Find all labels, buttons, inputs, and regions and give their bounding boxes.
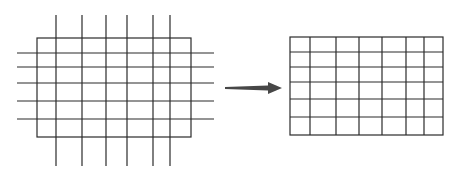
clipped-grid [290, 37, 443, 135]
unclipped-grid [17, 15, 214, 166]
right-arrow-icon [225, 82, 282, 94]
arrow-shape [225, 82, 282, 94]
diagram-canvas [0, 0, 459, 174]
grid-clipping-diagram [0, 0, 459, 174]
